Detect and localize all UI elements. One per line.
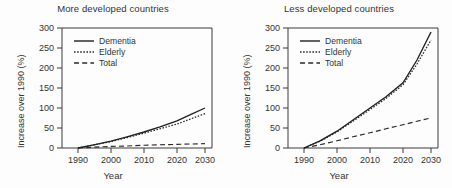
y-tick-label: 200 [265, 63, 280, 73]
x-tick-label: 2000 [327, 155, 347, 165]
y-tick-label: 150 [265, 83, 280, 93]
legend-label-total: Total [99, 58, 117, 68]
x-tick-label: 1990 [68, 155, 88, 165]
y-axis-ticks [57, 28, 62, 148]
legend-label-elderly: Elderly [99, 47, 126, 57]
y-tick-label: 150 [39, 83, 54, 93]
y-tick-label: 100 [265, 103, 280, 113]
y-tick-label: 300 [265, 23, 280, 33]
legend: Dementia Elderly Total [300, 36, 362, 68]
x-axis-title: Year [0, 170, 226, 181]
axis-frame [62, 28, 212, 148]
y-tick-label: 200 [39, 63, 54, 73]
figure-canvas: More developed countries 0 50 100 150 20… [0, 0, 452, 188]
x-tick-label: 2020 [167, 155, 187, 165]
chart-panel-less-developed: Less developed countries 0 50 100 150 20… [226, 0, 452, 188]
y-tick-label: 0 [275, 143, 280, 153]
series-line-total [304, 118, 431, 148]
x-tick-label: 2030 [195, 155, 215, 165]
x-tick-label: 2020 [393, 155, 413, 165]
x-axis-title: Year [226, 170, 452, 181]
series-line-elderly [304, 40, 431, 148]
x-tick-label: 2030 [421, 155, 441, 165]
y-tick-label: 50 [270, 123, 280, 133]
legend: Dementia Elderly Total [74, 36, 136, 68]
x-axis-ticks [78, 148, 205, 153]
series-line-dementia [304, 32, 431, 148]
x-tick-label: 2010 [134, 155, 154, 165]
legend-label-dementia: Dementia [325, 36, 362, 46]
y-tick-label: 250 [265, 43, 280, 53]
y-tick-label: 300 [39, 23, 54, 33]
y-axis-title: Increase over 1990 (%) [16, 54, 26, 148]
y-tick-label: 0 [49, 143, 54, 153]
axis-frame [288, 28, 438, 148]
chart-panel-more-developed: More developed countries 0 50 100 150 20… [0, 0, 226, 188]
y-tick-label: 250 [39, 43, 54, 53]
series-line-elderly [78, 114, 205, 148]
x-tick-label: 1990 [294, 155, 314, 165]
y-tick-label: 50 [44, 123, 54, 133]
legend-label-dementia: Dementia [99, 36, 136, 46]
plot-area-less-developed: 0 50 100 150 200 250 300 1990 2000 2010 … [226, 0, 452, 188]
x-axis-ticks [304, 148, 431, 153]
legend-label-total: Total [325, 58, 343, 68]
y-axis-ticks [283, 28, 288, 148]
y-tick-label: 100 [39, 103, 54, 113]
series-line-dementia [78, 108, 205, 148]
y-axis-title: Increase over 1990 (%) [242, 54, 252, 148]
legend-label-elderly: Elderly [325, 47, 352, 57]
x-tick-label: 2000 [101, 155, 121, 165]
plot-area-more-developed: 0 50 100 150 200 250 300 1990 2000 2010 … [0, 0, 226, 188]
x-tick-label: 2010 [360, 155, 380, 165]
